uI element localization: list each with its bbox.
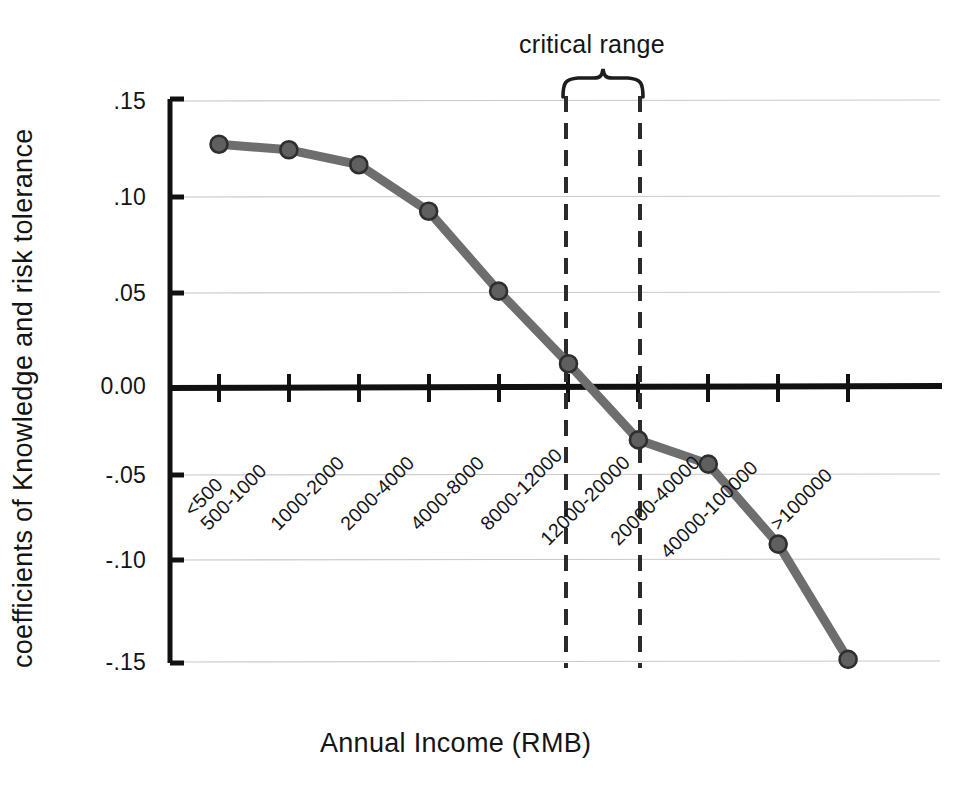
data-point-5 (560, 355, 577, 372)
y-tick-label-2: .05 (48, 280, 146, 307)
data-point-9 (840, 651, 857, 668)
gridline-0.10 (170, 196, 940, 197)
chart-canvas (0, 0, 955, 801)
gridline-0.05 (170, 292, 940, 293)
y-axis-title: coefficients of Knowledge and risk toler… (8, 128, 39, 668)
x-axis-title: Annual Income (RMB) (320, 728, 591, 759)
chart-figure: .15 .10 .05 0.00 -.05 -.10 -.15 <500 500… (0, 0, 955, 801)
gridlines (170, 100, 940, 662)
y-tick-label-5: -.10 (48, 547, 146, 574)
gridline--0.10 (170, 559, 940, 560)
data-point-2 (350, 156, 367, 173)
y-tick-label-3: 0.00 (48, 373, 146, 400)
gridline--0.15 (170, 661, 940, 662)
y-tick-label-6: -.15 (48, 649, 146, 676)
data-line-series-0 (219, 144, 848, 659)
data-point-0 (211, 136, 228, 153)
data-point-1 (280, 141, 297, 158)
data-point-6 (630, 431, 647, 448)
y-tick-label-4: -.05 (48, 462, 146, 489)
data-point-3 (420, 203, 437, 220)
y-tick-label-1: .10 (48, 184, 146, 211)
data-point-4 (490, 283, 507, 300)
gridline-0.15 (170, 100, 940, 101)
x-axis-zero-line (168, 386, 942, 388)
data-markers (211, 136, 857, 668)
critical-range-brace (563, 69, 643, 97)
data-point-8 (770, 536, 787, 553)
critical-range-label: critical range (519, 30, 665, 59)
y-tick-label-0: .15 (48, 88, 146, 115)
